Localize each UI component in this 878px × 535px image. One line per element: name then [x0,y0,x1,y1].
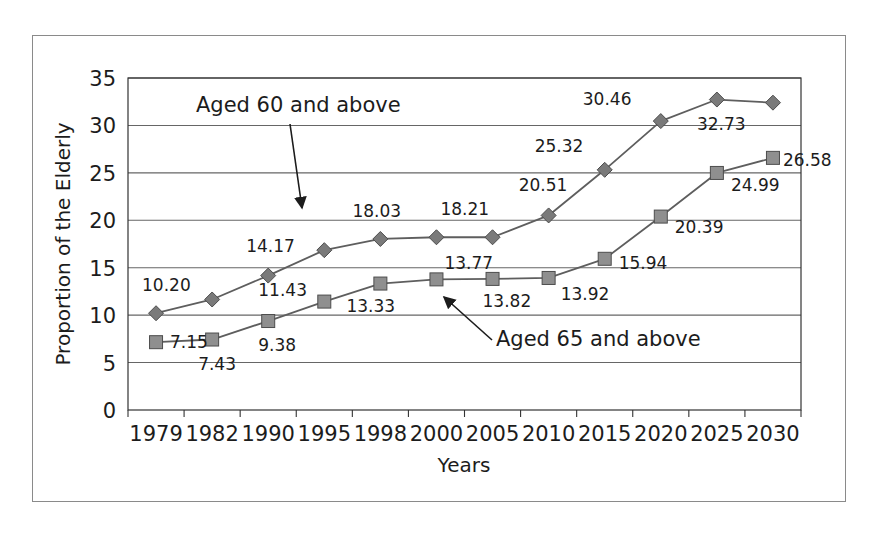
data-point-label: 15.94 [619,253,668,273]
data-point-label: 9.38 [258,335,296,355]
chart-annotations: Aged 60 and aboveAged 65 and above [196,93,701,351]
annotation-aged-60-arrow [290,124,302,208]
marker-square [318,295,331,308]
marker-square [654,210,667,223]
data-point-label: 26.58 [783,150,832,170]
chart-figure: 05101520253035 1979198219901995199820002… [0,0,878,535]
y-axis-title: Proportion of the Elderly [51,122,75,365]
x-tick-label: 1990 [241,422,294,446]
y-tick-label: 20 [89,209,116,233]
marker-diamond [485,230,500,245]
x-tick-label: 2025 [690,422,743,446]
y-tick-label: 0 [103,399,116,423]
marker-square [710,166,723,179]
series-2 [150,151,780,348]
data-point-label: 25.32 [535,136,584,156]
data-point-label: 14.17 [246,236,295,256]
marker-diamond [317,243,332,258]
x-tick-label: 1982 [185,422,238,446]
marker-diamond [205,292,220,307]
data-point-label: 11.43 [258,280,307,300]
y-tick-label: 10 [89,304,116,328]
x-axis-tick-labels: 1979198219901995199820002005201020152020… [129,422,799,446]
x-tick-label: 2020 [634,422,687,446]
data-point-label: 24.99 [731,175,780,195]
data-point-label: 7.15 [170,332,208,352]
data-point-label: 13.92 [561,284,610,304]
marker-square [430,273,443,286]
x-tick-label: 2000 [410,422,463,446]
y-tick-label: 15 [89,257,116,281]
marker-square [598,252,611,265]
x-tick-label: 2015 [578,422,631,446]
data-point-label: 10.20 [142,275,191,295]
data-point-label: 18.03 [352,201,401,221]
x-tick-label: 1979 [129,422,182,446]
data-point-label: 13.77 [444,253,493,273]
data-point-labels: 10.2014.1718.0318.2120.5125.3230.4632.73… [142,89,832,373]
annotation-aged-60-label: Aged 60 and above [196,93,401,117]
data-point-label: 30.46 [583,89,632,109]
annotation-aged-65-label: Aged 65 and above [496,327,701,351]
data-point-label: 32.73 [697,114,746,134]
y-tick-label: 30 [89,114,116,138]
y-axis-tick-labels: 05101520253035 [89,67,116,423]
x-tick-label: 1995 [298,422,351,446]
x-tick-label: 2030 [746,422,799,446]
marker-diamond [765,95,780,110]
marker-diamond [373,231,388,246]
x-axis-ticks [128,410,801,417]
data-point-label: 7.43 [198,354,236,374]
data-point-label: 18.21 [440,199,489,219]
marker-square [486,272,499,285]
marker-diamond [429,230,444,245]
marker-square [766,151,779,164]
line-chart-canvas: 05101520253035 1979198219901995199820002… [0,0,878,535]
y-tick-label: 5 [103,352,116,376]
data-point-label: 20.51 [519,175,568,195]
x-axis-title: Years [437,453,491,477]
marker-square [542,271,555,284]
data-point-label: 20.39 [675,217,724,237]
marker-diamond [149,306,164,321]
y-tick-label: 25 [89,162,116,186]
x-tick-label: 2005 [466,422,519,446]
marker-square [262,315,275,328]
marker-square [374,277,387,290]
marker-diamond [709,92,724,107]
x-tick-label: 2010 [522,422,575,446]
x-tick-label: 1998 [354,422,407,446]
marker-square [150,336,163,349]
data-point-label: 13.33 [346,296,395,316]
y-tick-label: 35 [89,67,116,91]
data-point-label: 13.82 [483,291,532,311]
